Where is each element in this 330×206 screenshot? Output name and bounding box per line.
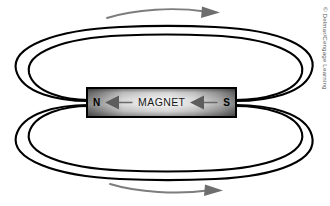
magnet-field-diagram: N MAGNET S © Delmar/Cengage Learning (0, 0, 330, 206)
north-left-arrow-icon (104, 95, 134, 110)
north-pole-label: N (93, 98, 100, 108)
south-pole-label: S (223, 98, 230, 108)
magnet-label: MAGNET (138, 97, 185, 108)
south-left-arrow-icon (189, 95, 219, 110)
magnet-bar: N MAGNET S (86, 87, 237, 118)
copyright-credit: © Delmar/Cengage Learning (322, 7, 329, 103)
